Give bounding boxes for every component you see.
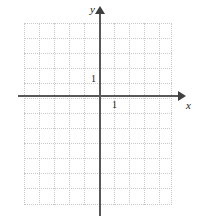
gridline-horizontal: [24, 113, 172, 115]
gridline-horizontal: [24, 23, 172, 25]
gridline-horizontal: [24, 83, 172, 85]
grid-area: [24, 23, 172, 205]
x-axis-tick-label-one: 1: [112, 100, 117, 110]
arrow-right-icon: [178, 91, 186, 101]
gridline-horizontal: [24, 143, 172, 145]
gridline-horizontal: [24, 68, 172, 70]
gridline-horizontal: [24, 128, 172, 130]
arrow-up-icon: [95, 6, 105, 14]
gridline-horizontal: [24, 98, 172, 100]
gridline-horizontal: [24, 204, 172, 206]
gridline-horizontal: [24, 53, 172, 55]
gridline-horizontal: [24, 188, 172, 190]
gridline-horizontal: [24, 38, 172, 40]
y-axis-line: [99, 11, 101, 216]
gridline-horizontal: [24, 158, 172, 160]
x-axis-label: x: [186, 100, 191, 111]
coordinate-grid-figure: x y 1 1: [0, 0, 202, 223]
y-axis-tick-label-one: 1: [91, 74, 96, 84]
gridline-horizontal: [24, 173, 172, 175]
y-axis-label: y: [90, 4, 95, 15]
